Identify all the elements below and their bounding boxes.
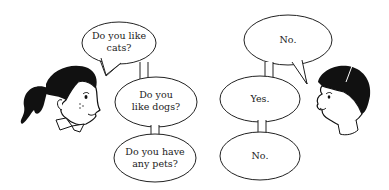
girl-question-1: Do you like cats?: [86, 30, 152, 54]
boy-bubble-1: [244, 15, 332, 84]
illustration-art: [0, 0, 389, 190]
boy-answer-1: No.: [248, 34, 328, 46]
girl-question-2-line-2: like dogs?: [120, 101, 192, 113]
boy-answer-3: No.: [222, 150, 298, 162]
boy-figure: [317, 66, 370, 135]
boy-answer-2: Yes.: [222, 93, 298, 105]
girl-connector-1: [140, 62, 148, 79]
girl-question-3-line-1: Do you have: [118, 146, 192, 158]
girl-question-1-line-2: cats?: [86, 42, 152, 54]
girl-question-2: Do you like dogs?: [120, 89, 192, 113]
girl-question-3: Do you have any pets?: [118, 146, 192, 170]
girl-question-2-line-1: Do you: [120, 89, 192, 101]
girl-question-1-line-1: Do you like: [86, 30, 152, 42]
girl-question-3-line-2: any pets?: [118, 158, 192, 170]
dialogue-illustration: Do you like cats? Do you like dogs? Do y…: [0, 0, 389, 190]
girl-figure: [21, 66, 100, 132]
